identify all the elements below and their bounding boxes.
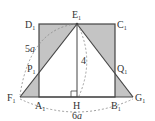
label-p1: P1 bbox=[27, 63, 36, 75]
label-e1: E1 bbox=[72, 9, 81, 21]
vertex-e1-dot bbox=[76, 23, 79, 26]
diagram-svg: D1 E1 C1 P1 Q1 F1 A1 H B1 G1 5a 4 6a bbox=[0, 0, 155, 121]
label-b1: B1 bbox=[111, 100, 121, 112]
label-height-4: 4 bbox=[81, 55, 86, 66]
label-f1: F1 bbox=[7, 92, 16, 104]
label-g1: G1 bbox=[135, 92, 145, 104]
right-angle-marker bbox=[71, 91, 77, 97]
label-5a: 5a bbox=[25, 43, 35, 54]
label-6a: 6a bbox=[72, 110, 82, 121]
label-a1: A1 bbox=[35, 100, 45, 112]
geometry-diagram: D1 E1 C1 P1 Q1 F1 A1 H B1 G1 5a 4 6a bbox=[0, 0, 155, 121]
label-c1: C1 bbox=[117, 19, 127, 31]
label-q1: Q1 bbox=[117, 63, 127, 75]
label-d1: D1 bbox=[25, 19, 35, 31]
